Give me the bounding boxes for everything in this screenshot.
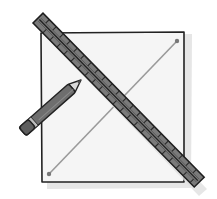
endpoint-dot-bottom [47,172,51,176]
ruler-square-illustration: Square with diagonal line drawn using a … [0,0,217,199]
endpoint-dot-top [175,39,179,43]
square-paper [41,32,192,189]
